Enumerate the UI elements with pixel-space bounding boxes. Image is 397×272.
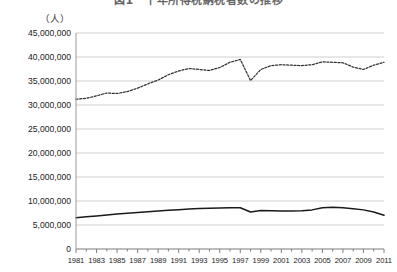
x-axis-tick-label: 1981	[68, 256, 85, 265]
x-axis-tick-label: 1987	[129, 256, 146, 265]
x-axis-tick-label: 1995	[211, 256, 228, 265]
x-axis-tick-label: 2003	[294, 256, 311, 265]
x-axis-tick-label: 2007	[335, 256, 352, 265]
y-axis-tick-label: 15,000,000	[28, 172, 71, 182]
y-axis-tick-label: 45,000,000	[28, 28, 71, 38]
y-axis-tick-label: 30,000,000	[28, 100, 71, 110]
y-axis-tick-label: 25,000,000	[28, 124, 71, 134]
x-axis-tick-label: 2009	[355, 256, 372, 265]
y-axis-tick-label: 40,000,000	[28, 52, 71, 62]
x-axis-tick-label: 1997	[232, 256, 249, 265]
x-axis-tick-label: 1991	[170, 256, 187, 265]
chart-figure: 図1 十年所得税納税者数の推移 （人） 45,000,00040,000,000…	[0, 0, 397, 272]
y-axis-tick-label: 0	[66, 244, 71, 254]
series-line-1	[76, 59, 384, 99]
data-series-group	[76, 59, 384, 217]
x-axis-tick-label: 1985	[109, 256, 126, 265]
x-axis-tick-marks	[76, 249, 384, 253]
y-axis-tick-labels: 45,000,00040,000,00035,000,00030,000,000…	[28, 28, 71, 254]
x-axis-tick-label: 1993	[191, 256, 208, 265]
series-line-2	[76, 207, 384, 218]
x-axis-tick-labels: 1981198319851987198919911993199519971999…	[68, 256, 392, 265]
x-axis-tick-label: 1989	[150, 256, 167, 265]
y-axis-tick-label: 35,000,000	[28, 76, 71, 86]
x-axis-tick-label: 2011	[376, 256, 392, 265]
x-axis-tick-label: 1983	[88, 256, 105, 265]
x-axis-tick-label: 2001	[273, 256, 290, 265]
y-axis-tick-label: 5,000,000	[33, 220, 71, 230]
x-axis-tick-label: 1999	[253, 256, 270, 265]
x-axis-tick-label: 2005	[314, 256, 331, 265]
y-axis-tick-label: 20,000,000	[28, 148, 71, 158]
y-axis-tick-label: 10,000,000	[28, 196, 71, 206]
line-chart-plot: 45,000,00040,000,00035,000,00030,000,000…	[0, 0, 397, 272]
